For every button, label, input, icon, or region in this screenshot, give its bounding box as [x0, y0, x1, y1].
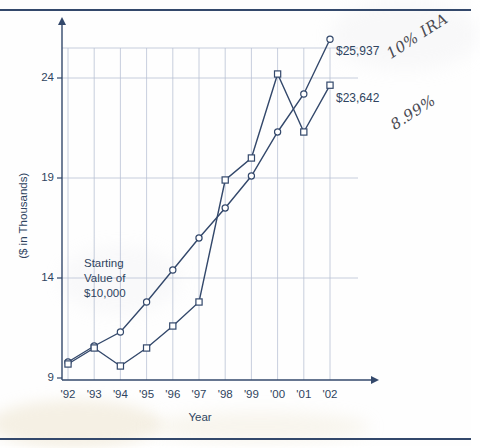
starting-value-note: Starting Value of $10,000: [84, 256, 126, 301]
data-point-marker-circle: [275, 129, 281, 135]
starting-value-note-line: Starting: [84, 256, 126, 271]
data-point-marker-square: [222, 177, 228, 183]
data-point-marker-square: [117, 363, 123, 369]
x-axis-title: Year: [160, 412, 240, 424]
data-point-marker-square: [248, 155, 254, 161]
starting-value-note-line: $10,000: [84, 286, 126, 301]
data-point-marker-square: [144, 345, 150, 351]
data-point-marker-square: [170, 323, 176, 329]
data-point-marker-square: [275, 71, 281, 77]
data-point-marker-square: [91, 345, 97, 351]
data-point-marker-circle: [301, 91, 307, 97]
data-point-marker-circle: [170, 267, 176, 273]
x-axis-tick-label: '02: [314, 389, 346, 401]
data-point-marker-circle: [248, 173, 254, 179]
gridlines: [62, 48, 358, 380]
data-point-marker-circle: [327, 36, 333, 42]
data-point-marker-square: [65, 361, 71, 367]
data-point-marker-circle: [222, 205, 228, 211]
y-axis-title: ($ in Thousands): [18, 156, 30, 276]
data-point-marker-square: [327, 82, 333, 88]
data-point-marker-circle: [144, 299, 150, 305]
data-point-marker-circle: [196, 235, 202, 241]
data-point-marker-square: [301, 129, 307, 135]
starting-value-note-line: Value of: [84, 271, 126, 286]
y-axis-tick-label: 9: [16, 372, 54, 384]
data-point-marker-circle: [117, 329, 123, 335]
data-point-marker-square: [196, 299, 202, 305]
end-label-series-a: $25,937: [336, 44, 379, 58]
y-axis-tick-label: 24: [16, 72, 54, 84]
axes: [57, 24, 372, 380]
end-label-series-b: $23,642: [336, 91, 379, 105]
